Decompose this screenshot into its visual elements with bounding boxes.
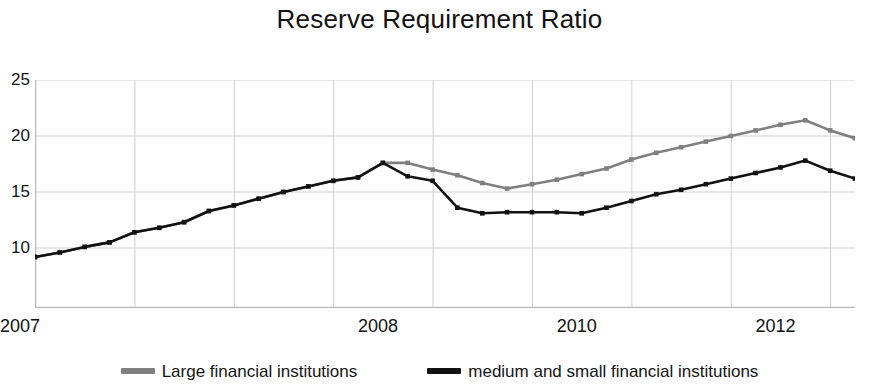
data-point-marker <box>679 145 684 150</box>
chart-legend: Large financial institutionsmedium and s… <box>0 357 879 385</box>
data-point-marker <box>58 250 63 255</box>
data-point-marker <box>579 172 584 177</box>
data-point-marker <box>803 118 808 123</box>
data-point-marker <box>455 205 460 210</box>
data-point-marker <box>505 210 510 215</box>
data-point-marker <box>654 192 659 197</box>
data-point-marker <box>778 123 783 128</box>
x-axis-tick-label: 2008 <box>358 316 398 336</box>
data-point-marker <box>604 166 609 171</box>
data-point-marker <box>281 190 286 195</box>
legend-color-swatch <box>121 368 155 374</box>
chart-title: Reserve Requirement Ratio <box>0 4 879 35</box>
data-point-marker <box>704 182 709 187</box>
data-point-marker <box>207 209 212 214</box>
data-point-marker <box>679 188 684 193</box>
chart-container: Reserve Requirement Ratio 10152025 20072… <box>0 0 879 386</box>
x-axis-tick-label: 2012 <box>755 316 795 336</box>
data-point-marker <box>753 128 758 133</box>
x-axis-tick-label: 2007 <box>0 316 40 336</box>
data-point-marker <box>778 165 783 170</box>
data-point-marker <box>381 161 386 166</box>
data-point-marker <box>430 179 435 184</box>
x-axis-tick-labels: 2007200820102012 <box>0 316 879 344</box>
y-axis-tick-labels: 10152025 <box>0 70 33 320</box>
data-point-marker <box>629 157 634 162</box>
data-point-marker <box>480 181 485 186</box>
legend-entry[interactable]: Large financial institutions <box>121 362 358 381</box>
data-point-marker <box>853 136 855 141</box>
x-axis-tick-label: 2010 <box>557 316 597 336</box>
plot-area <box>35 80 855 308</box>
data-point-marker <box>530 210 535 215</box>
y-axis-tick-label: 20 <box>11 127 30 144</box>
data-point-marker <box>555 210 560 215</box>
data-point-marker <box>803 158 808 163</box>
series-large <box>35 118 855 259</box>
y-axis-tick-label: 10 <box>11 239 30 256</box>
legend-color-swatch <box>427 368 461 374</box>
legend-label: medium and small financial institutions <box>468 362 758 381</box>
data-point-marker <box>480 211 485 216</box>
data-point-marker <box>505 186 510 191</box>
data-point-marker <box>430 167 435 172</box>
data-point-marker <box>157 226 162 231</box>
data-point-marker <box>306 184 311 189</box>
data-point-marker <box>704 139 709 144</box>
legend-label: Large financial institutions <box>162 362 358 381</box>
data-point-marker <box>853 176 855 181</box>
chart-plot-svg <box>35 80 855 308</box>
data-point-marker <box>82 245 87 250</box>
y-axis-tick-label: 25 <box>11 71 30 88</box>
data-point-marker <box>604 205 609 210</box>
data-point-marker <box>182 220 187 225</box>
data-point-marker <box>828 128 833 133</box>
data-point-marker <box>35 255 37 260</box>
data-point-marker <box>729 176 734 181</box>
legend-entry[interactable]: medium and small financial institutions <box>427 362 758 381</box>
data-point-marker <box>132 230 137 235</box>
data-point-marker <box>530 182 535 187</box>
data-point-marker <box>629 199 634 204</box>
y-axis-tick-label: 15 <box>11 183 30 200</box>
data-point-marker <box>405 161 410 166</box>
data-point-marker <box>729 134 734 139</box>
data-point-marker <box>356 175 361 180</box>
series-line <box>35 120 855 257</box>
data-point-marker <box>455 173 460 178</box>
data-point-marker <box>405 174 410 179</box>
data-point-marker <box>555 177 560 182</box>
data-point-marker <box>579 211 584 216</box>
data-point-marker <box>331 179 336 184</box>
data-point-marker <box>256 196 261 201</box>
data-point-marker <box>654 151 659 156</box>
data-point-marker <box>107 240 112 245</box>
data-point-marker <box>753 171 758 176</box>
series-line <box>35 161 855 257</box>
data-point-marker <box>828 168 833 173</box>
data-point-marker <box>232 203 237 208</box>
